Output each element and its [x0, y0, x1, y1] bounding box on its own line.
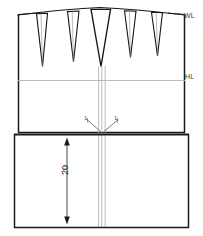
waist-top-rule-left: [18, 13, 36, 14]
dart-4: [125, 11, 137, 58]
notch-label-left: 1: [84, 115, 87, 121]
dimension-label-20: 20: [61, 165, 70, 175]
dart-3-center: [91, 9, 111, 66]
hip-line-label: HL: [185, 73, 194, 80]
dimension-arrow-20: [64, 138, 70, 225]
dimension-arrowhead-top: [64, 138, 70, 146]
dart-group: [37, 9, 163, 66]
pattern-draft-canvas: WL HL 1 1 20: [0, 0, 203, 236]
waist-line-label: WL: [184, 12, 195, 19]
waist-top-rule-right: [168, 13, 185, 14]
dimension-arrowhead-bottom: [64, 217, 70, 225]
notch-label-right: 1: [114, 115, 117, 121]
dart-1: [37, 13, 48, 66]
notch-line-right: [104, 121, 117, 132]
pattern-draft-drawing: [0, 0, 203, 236]
dart-5: [152, 12, 163, 56]
dart-2: [68, 11, 80, 62]
center-grain-lines: [99, 66, 106, 228]
